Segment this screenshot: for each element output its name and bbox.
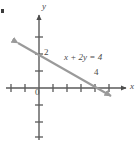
x-axis-group	[6, 84, 126, 92]
equation-label: x + 2y = 4	[64, 53, 102, 62]
origin-label: 0	[35, 88, 40, 97]
y-intercept-label: 2	[44, 48, 49, 57]
y-axis-group	[35, 15, 43, 140]
y-axis-label: y	[42, 2, 46, 11]
line-graph-figure: y x 0 2 4 x + 2y = 4	[0, 0, 140, 145]
coordinate-plane-svg	[0, 0, 140, 145]
x-intercept-label: 4	[94, 68, 99, 77]
x-axis-label: x	[130, 82, 134, 91]
